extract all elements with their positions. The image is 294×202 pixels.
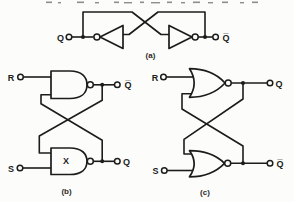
inversion-bubble — [225, 80, 231, 86]
caption-b: (b) — [61, 187, 72, 196]
circuit-c: R S Q Q̅ (c) — [152, 69, 284, 197]
label-s: S — [152, 166, 158, 176]
label-qbar: Q̅ — [124, 80, 131, 90]
label-s: S — [8, 164, 14, 174]
inverter-right — [169, 26, 192, 49]
gate-mark-x: X — [63, 156, 69, 166]
label-q: Q — [57, 33, 64, 43]
terminal-r — [161, 74, 167, 80]
inversion-bubble — [225, 160, 231, 166]
nor-gate-bottom — [190, 151, 225, 177]
inversion-bubble — [87, 82, 93, 88]
junction-dot — [203, 35, 207, 39]
label-r: R — [8, 73, 15, 83]
terminal-qbar — [267, 161, 273, 167]
latch-circuits-figure: Q Q̅ (a) R S Q̅ Q X (b) — [0, 0, 294, 202]
terminal-s — [162, 168, 168, 174]
circuit-b: R S Q̅ Q X (b) — [8, 71, 132, 196]
caption-c: (c) — [200, 188, 210, 197]
junction-dot — [81, 35, 85, 39]
inversion-bubble — [192, 34, 198, 40]
label-q: Q — [275, 79, 282, 89]
nor-gate-top — [190, 69, 226, 98]
terminal-r — [18, 74, 24, 80]
junction-dot — [100, 159, 104, 163]
label-qbar: Q̅ — [276, 159, 283, 169]
terminal-qbar — [115, 82, 121, 88]
terminal-qbar — [213, 34, 219, 40]
caption-a: (a) — [146, 51, 156, 60]
terminal-q — [267, 80, 273, 86]
terminal-q — [115, 159, 121, 165]
cropped-text-fragments — [46, 2, 258, 4]
terminal-q — [66, 34, 72, 40]
inversion-bubble — [87, 158, 93, 164]
nand-gate-top — [51, 71, 87, 99]
junction-dot — [241, 81, 245, 85]
label-q: Q — [123, 157, 130, 167]
label-r: R — [152, 73, 159, 83]
scanned-figure-page: Q Q̅ (a) R S Q̅ Q X (b) — [0, 0, 294, 202]
label-qbar: Q̅ — [222, 33, 229, 43]
junction-dot — [241, 161, 245, 165]
wire-feedback-right-to-left-input — [123, 12, 205, 37]
wire-feedback-left-to-right-input — [83, 12, 169, 37]
inversion-bubble — [94, 34, 100, 40]
terminal-s — [17, 165, 23, 171]
inverter-left — [100, 26, 123, 49]
circuit-a: Q Q̅ (a) — [57, 12, 230, 60]
junction-dot — [100, 83, 104, 87]
